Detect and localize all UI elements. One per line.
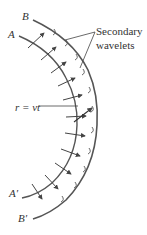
label-a-prime: A′ <box>9 188 18 199</box>
label-wavelets: wavelets <box>96 40 134 51</box>
label-secondary: Secondary <box>96 26 142 37</box>
label-a: A <box>8 29 15 40</box>
label-b-prime: B′ <box>18 213 27 224</box>
label-radius: r = vt <box>15 102 40 113</box>
label-b: B <box>22 11 29 22</box>
